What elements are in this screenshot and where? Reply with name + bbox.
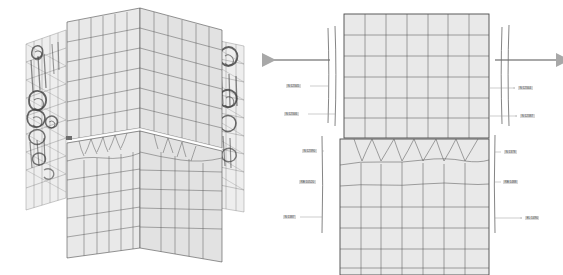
column-lower-segment (67, 131, 222, 262)
node-label-right-2: N:12387 (520, 114, 535, 118)
elevation-mesh-svg (282, 0, 563, 275)
rebar-right-2 (508, 25, 509, 126)
rebar-left-3 (322, 136, 323, 233)
rebar-label-right-4: RB:1488 (503, 180, 518, 184)
elevation-2d-view-panel: N:12345 N:12346 N:12390 RB:10520 N:1387 … (282, 0, 563, 275)
node-label-left-5: N:1387 (283, 215, 296, 219)
upper-mesh-block (344, 14, 489, 138)
lower-mesh-block (340, 139, 489, 275)
element-label-right-5: EL:1490 (525, 216, 539, 220)
left-flange-plane (26, 30, 66, 210)
rebar-right-1 (501, 27, 502, 124)
isometric-mesh-svg (0, 0, 282, 275)
node-label-right-3: N:1378 (504, 150, 517, 154)
rebar-left-1 (328, 28, 329, 123)
node-label-left-2: N:12346 (284, 112, 299, 116)
rebar-left-2 (335, 26, 336, 126)
fea-mesh-figure: N:12345 N:12346 N:12390 RB:10520 N:1387 … (0, 0, 563, 275)
column-upper-segment (67, 8, 222, 148)
isometric-3d-view-panel (0, 0, 282, 275)
node-label-left-1: N:12345 (286, 84, 301, 88)
node-label-left-3: N:12390 (302, 149, 317, 153)
node-label-right-1: N:12344 (518, 86, 533, 90)
rebar-right-3 (494, 135, 495, 233)
rebar-label-left-4: RB:10520 (299, 180, 316, 184)
